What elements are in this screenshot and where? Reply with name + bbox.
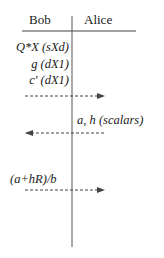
message-label-scalars: a, h (scalars) — [77, 113, 143, 128]
party-bob-header: Bob — [29, 12, 51, 28]
bob-value-g: g (dX1) — [31, 57, 69, 72]
bob-value-c: c' (dX1) — [29, 73, 69, 88]
message-label-response: (a+hR)/b — [10, 172, 57, 187]
protocol-lines — [0, 0, 164, 258]
party-alice-header: Alice — [84, 12, 112, 28]
bob-value-qx: Q*X (sXd) — [16, 40, 69, 55]
